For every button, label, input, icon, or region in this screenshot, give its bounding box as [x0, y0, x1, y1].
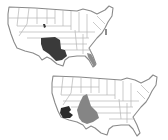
us-outline: [52, 75, 157, 136]
us-map-bottom: [49, 72, 166, 140]
us-map-top: [5, 2, 118, 70]
highlight-midatlantic-spot: [105, 29, 107, 35]
